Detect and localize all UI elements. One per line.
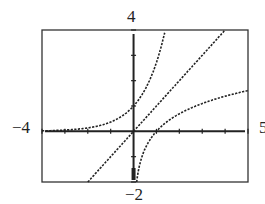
plot-frame: [42, 30, 248, 182]
xmin-label: −4: [12, 119, 30, 136]
ln-asymptote-mark: [132, 168, 136, 180]
ymin-label: −2: [125, 186, 143, 203]
graph-window: [0, 0, 265, 204]
ymax-label: 4: [127, 8, 136, 25]
line-identity: [88, 30, 225, 182]
curve-ln: [137, 91, 248, 182]
xmax-label: 5: [259, 119, 265, 136]
